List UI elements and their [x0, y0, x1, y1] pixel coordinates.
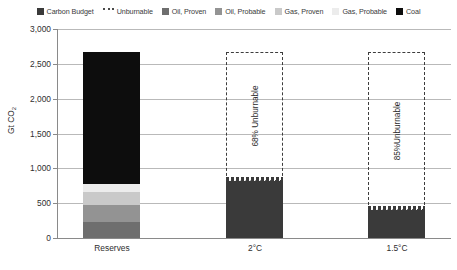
legend-swatch-gas-proven [275, 8, 282, 15]
bar-group-1-5c[interactable]: 85%Unburnable [368, 52, 425, 238]
legend-label-gas-probable: Gas, Probable [342, 7, 387, 16]
chart-legend: Carbon Budget Unburnable Oil, Proven Oil… [0, 7, 457, 16]
legend-item-carbon-budget: Carbon Budget [37, 7, 94, 16]
y-axis-line [57, 29, 58, 238]
legend-label-unburnable: Unburnable [117, 7, 153, 16]
unburnable-label-1-5c: 85%Unburnable [392, 102, 401, 161]
legend-item-gas-proven: Gas, Proven [275, 7, 324, 16]
legend-label-coal: Coal [406, 7, 420, 16]
legend-label-gas-proven: Gas, Proven [285, 7, 324, 16]
bar-segment-oil-probable[interactable] [83, 205, 140, 222]
ytick-label-1000: 1,000 [5, 163, 57, 173]
ytick-label-1500: 1,500 [5, 129, 57, 139]
bar-group-reserves[interactable] [83, 52, 140, 238]
ytick-label-3000: 3,000 [5, 24, 57, 34]
legend-item-gas-probable: Gas, Probable [332, 7, 387, 16]
legend-swatch-gas-probable [332, 8, 339, 15]
legend-item-oil-proven: Oil, Proven [162, 7, 206, 16]
unburnable-box-1-5c: 85%Unburnable [368, 52, 425, 210]
bar-segment-gas-probable[interactable] [83, 184, 140, 192]
legend-swatch-unburnable [103, 8, 114, 17]
plot-area: 3,000 2,500 2,000 1,500 1,000 500 0 [57, 29, 451, 238]
ytick-label-2500: 2,500 [5, 59, 57, 69]
y-axis-title-subscript: 2 [11, 107, 17, 110]
x-axis-line [57, 238, 451, 239]
ytick-label-0: 0 [5, 233, 57, 243]
unburnable-label-2c: 68% Unburnable [250, 86, 259, 147]
legend-label-oil-probable: Oil, Probable [225, 7, 265, 16]
legend-item-unburnable: Unburnable [103, 7, 153, 16]
bar-group-2c[interactable]: 68% Unburnable [226, 52, 283, 238]
legend-label-carbon-budget: Carbon Budget [47, 7, 94, 16]
legend-swatch-carbon-budget [37, 8, 44, 15]
legend-swatch-oil-probable [215, 8, 222, 15]
legend-label-oil-proven: Oil, Proven [172, 7, 206, 16]
unburnable-box-2c: 68% Unburnable [226, 52, 283, 181]
carbon-budget-chart: Carbon Budget Unburnable Oil, Proven Oil… [0, 0, 457, 270]
legend-item-oil-probable: Oil, Probable [215, 7, 265, 16]
legend-swatch-oil-proven [162, 8, 169, 15]
ytick-label-2000: 2,000 [5, 94, 57, 104]
bar-segment-oil-proven[interactable] [83, 222, 140, 238]
legend-item-coal: Coal [396, 7, 420, 16]
bar-segment-carbon-budget-1-5c[interactable] [368, 210, 425, 238]
gridline-3000: 3,000 [57, 29, 451, 30]
x-axis-label-2c: 2°C [195, 243, 315, 253]
legend-swatch-coal [396, 8, 403, 15]
ytick-label-500: 500 [5, 198, 57, 208]
x-axis-label-1-5c: 1.5°C [337, 243, 457, 253]
bar-segment-coal[interactable] [83, 52, 140, 184]
x-axis-label-reserves: Reserves [52, 243, 172, 253]
bar-segment-carbon-budget-2c[interactable] [226, 181, 283, 238]
bar-segment-gas-proven[interactable] [83, 192, 140, 205]
